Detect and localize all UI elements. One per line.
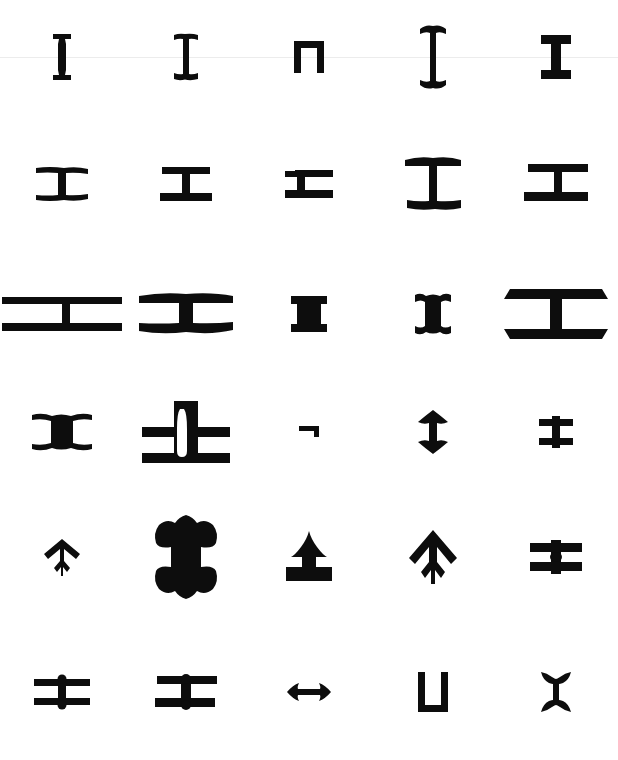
glyph-wide-slab-i-beam xyxy=(158,164,214,204)
glyph-cell: heavy blob I-beam xyxy=(124,489,248,624)
glyph-tall-wide-i-beam xyxy=(401,155,465,213)
glyph-small-bracket-mark xyxy=(297,424,321,440)
glyph-horizontal-double-arrow xyxy=(285,681,333,703)
glyph-cell: tall stem crossing two bars xyxy=(124,374,248,489)
glyph-offset-stem-i-beam xyxy=(283,167,335,201)
glyph-barrel-stem-i-beam xyxy=(412,290,454,338)
glyph-double-bar-knob-i-beam xyxy=(153,671,219,713)
glyph-extra-wide-thin-i-beam xyxy=(0,292,124,336)
glyph-curved-fork-i-beam xyxy=(538,669,574,715)
glyph-heavy-double-stem-i-beam xyxy=(500,284,612,344)
glyph-cell: bold flat I-beam xyxy=(495,489,618,624)
glyph-serif-capital-i-narrow xyxy=(49,32,75,82)
glyph-cell: vertical double arrowhead xyxy=(371,374,495,489)
glyph-tall-i-beam-spurred xyxy=(416,23,450,91)
glyph-outline-up-arrow-fletched xyxy=(407,528,459,586)
glyph-grid: narrow slab-serif capital I flared-serif… xyxy=(0,0,618,760)
glyph-cell: spurred barrel I-beam xyxy=(0,374,124,489)
glyph-serif-capital-i-flared xyxy=(171,32,201,82)
glyph-cell: flared-serif capital I xyxy=(124,0,248,114)
glyph-cell: right-offset stem wide I-beam xyxy=(495,114,618,254)
glyph-spurred-barrel-i-beam xyxy=(30,410,94,454)
glyph-small-bold-i-beam xyxy=(537,414,575,450)
glyph-bold-flat-i-beam xyxy=(528,537,584,577)
glyph-cell: wide spurred I-beam xyxy=(124,254,248,374)
glyph-cell: I-beam with knob joints xyxy=(0,624,124,760)
glyph-double-arrowhead-vertical xyxy=(415,408,451,456)
glyph-cell: tall wide I-beam xyxy=(371,114,495,254)
glyph-cell: small bracket mark xyxy=(248,374,372,489)
glyph-cell: tall spurred I-beam xyxy=(371,0,495,114)
glyph-cell: barrel stem I-beam with spurs xyxy=(371,254,495,374)
glyph-cell: narrow slab-serif capital I xyxy=(0,0,124,114)
glyph-cell: outline fletched up arrow xyxy=(371,489,495,624)
glyph-cell: curved fork I-beam xyxy=(495,624,618,760)
glyph-cell: horizontal double arrow xyxy=(248,624,372,760)
glyph-u-bracket xyxy=(416,670,450,714)
glyph-wide-spurred-i-beam xyxy=(136,290,236,338)
glyph-cell: solid up arrow on pedestal xyxy=(248,489,372,624)
glyph-compact-double-serif-i xyxy=(287,292,331,336)
glyph-solid-up-arrow-pedestal xyxy=(284,529,334,585)
glyph-cell: thin fletched up arrow xyxy=(0,489,124,624)
glyph-cell: bold slab-serif capital I xyxy=(495,0,618,114)
glyph-cell: extra wide thin I-beam xyxy=(0,254,124,374)
glyph-cell: inverted U bracket xyxy=(248,0,372,114)
glyph-heavy-blob-i-beam xyxy=(153,513,219,601)
glyph-cell: wide flat I-beam xyxy=(0,114,124,254)
specimen-sheet: narrow slab-serif capital I flared-serif… xyxy=(0,0,618,760)
glyph-cell: double-bar knob I-beam xyxy=(124,624,248,760)
glyph-tall-stem-double-bar xyxy=(140,399,232,465)
glyph-cell: small bold I-beam xyxy=(495,374,618,489)
glyph-dotted-joint-i-beam xyxy=(32,672,92,712)
glyph-cell: wide slab I-beam xyxy=(124,114,248,254)
glyph-cell: left-offset stem I-beam xyxy=(248,114,372,254)
glyph-inverted-u-bracket xyxy=(292,39,326,75)
glyph-cell: U bracket xyxy=(371,624,495,760)
glyph-offset-stem-wide-i-beam xyxy=(522,161,590,207)
glyph-wide-flat-i-beam xyxy=(34,164,90,204)
glyph-cell: heavy double-stem tapered I-beam xyxy=(495,254,618,374)
glyph-thin-up-arrow-fletched xyxy=(42,536,82,578)
glyph-bold-slab-capital-i xyxy=(538,33,574,81)
glyph-cell: compact double-serif I xyxy=(248,254,372,374)
